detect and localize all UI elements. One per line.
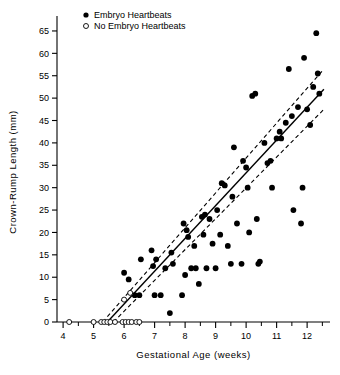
data-point xyxy=(234,221,240,227)
legend-marker-filled-circle xyxy=(83,12,88,17)
data-point xyxy=(307,122,313,128)
x-tick-label: 6 xyxy=(122,331,127,341)
x-tick-label: 4 xyxy=(61,331,66,341)
data-point xyxy=(191,243,197,249)
data-point xyxy=(240,158,246,164)
data-point xyxy=(229,194,235,200)
y-tick-label: 50 xyxy=(39,93,49,103)
data-point xyxy=(298,221,304,227)
data-point xyxy=(213,265,219,271)
data-point xyxy=(214,207,220,213)
data-point xyxy=(112,320,117,325)
data-point xyxy=(167,310,173,316)
data-point xyxy=(210,241,216,247)
data-point xyxy=(193,265,199,271)
data-point xyxy=(225,243,231,249)
data-point xyxy=(228,261,234,267)
data-point xyxy=(295,104,301,110)
series-embryo-heartbeats xyxy=(121,30,322,316)
data-point xyxy=(217,232,223,238)
data-point xyxy=(283,120,289,126)
data-point xyxy=(257,259,263,265)
plot-canvas: 05101520253035404550556065456789101112Ge… xyxy=(0,0,340,375)
x-tick-label: 9 xyxy=(213,331,218,341)
data-point xyxy=(301,55,307,61)
data-point xyxy=(315,71,321,77)
data-point xyxy=(126,277,132,283)
data-point xyxy=(289,113,295,119)
data-point xyxy=(231,144,237,150)
data-point xyxy=(313,30,319,36)
y-tick-label: 45 xyxy=(39,116,49,126)
data-point xyxy=(162,265,168,271)
y-tick-label: 55 xyxy=(39,71,49,81)
data-point xyxy=(185,234,191,240)
data-point xyxy=(168,250,174,256)
data-point xyxy=(268,158,274,164)
data-point xyxy=(316,91,322,97)
y-axis-title: Crown-Rump Length (mm) xyxy=(7,110,18,233)
data-point xyxy=(136,292,142,298)
y-tick-label: 15 xyxy=(39,250,49,260)
data-point xyxy=(254,216,260,222)
data-point xyxy=(304,106,310,112)
data-point xyxy=(278,136,284,142)
x-tick-label: 10 xyxy=(241,331,251,341)
y-tick-label: 35 xyxy=(39,160,49,170)
data-point xyxy=(243,165,249,171)
data-point xyxy=(153,256,159,262)
data-point xyxy=(138,256,144,262)
data-point xyxy=(262,140,268,146)
x-tick-label: 8 xyxy=(183,331,188,341)
data-point xyxy=(128,290,133,295)
data-point xyxy=(286,66,292,72)
legend-marker-open-circle xyxy=(84,24,89,29)
x-tick-label: 7 xyxy=(152,331,157,341)
y-tick-label: 20 xyxy=(39,228,49,238)
series-no-embryo-heartbeats xyxy=(67,290,142,324)
data-point xyxy=(204,265,210,271)
lower-confidence-band xyxy=(113,109,323,322)
data-point xyxy=(121,270,127,276)
y-tick-label: 10 xyxy=(39,272,49,282)
data-point xyxy=(207,216,213,222)
legend-label: Embryo Heartbeats xyxy=(94,10,172,20)
y-tick-label: 65 xyxy=(39,26,49,36)
data-point xyxy=(150,263,156,269)
x-tick-label: 12 xyxy=(302,331,312,341)
data-point xyxy=(239,261,245,267)
data-point xyxy=(202,212,208,218)
data-point xyxy=(277,129,283,135)
data-point xyxy=(149,247,155,253)
data-point xyxy=(158,292,164,298)
upper-confidence-band xyxy=(103,69,324,322)
data-point xyxy=(290,207,296,213)
data-point xyxy=(245,185,251,191)
data-point xyxy=(91,320,96,325)
data-point xyxy=(152,292,158,298)
y-tick-label: 30 xyxy=(39,183,49,193)
data-point xyxy=(201,232,207,238)
x-tick-label: 5 xyxy=(91,331,96,341)
y-tick-label: 5 xyxy=(44,295,49,305)
data-point xyxy=(184,227,190,233)
y-tick-label: 0 xyxy=(44,317,49,327)
data-point xyxy=(137,320,142,325)
y-tick-label: 25 xyxy=(39,205,49,215)
legend-label: No Embryo Heartbeats xyxy=(94,21,186,31)
data-point xyxy=(246,230,252,236)
scatter-plot-figure: 05101520253035404550556065456789101112Ge… xyxy=(0,0,340,375)
data-point xyxy=(222,183,228,189)
data-point xyxy=(67,320,72,325)
x-tick-label: 11 xyxy=(272,331,281,341)
y-tick-label: 40 xyxy=(39,138,49,148)
data-point xyxy=(122,297,127,302)
data-point xyxy=(181,221,187,227)
data-point xyxy=(252,91,258,97)
y-tick-label: 60 xyxy=(39,49,49,59)
data-point xyxy=(170,261,176,267)
data-point xyxy=(196,281,202,287)
data-point xyxy=(269,185,275,191)
data-point xyxy=(182,272,188,278)
x-axis-title: Gestational Age (weeks) xyxy=(136,349,250,360)
